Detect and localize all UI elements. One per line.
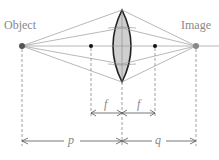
- image-label: Image: [181, 18, 211, 32]
- distance-arrows: [22, 138, 196, 144]
- image-distance-label: q: [155, 133, 161, 147]
- focal-point-right: [153, 44, 157, 48]
- focal-length-label-right: f: [137, 97, 142, 111]
- dashed-guides: [22, 48, 196, 146]
- object-distance-label: p: [67, 133, 74, 147]
- focal-length-arrows: [91, 110, 155, 116]
- image-point: [193, 43, 199, 49]
- object-point: [19, 43, 25, 49]
- focal-point-left: [89, 44, 93, 48]
- lens-diagram: Object Image f f p q: [0, 0, 219, 160]
- focal-length-label-left: f: [104, 97, 109, 111]
- object-label: Object: [4, 18, 37, 32]
